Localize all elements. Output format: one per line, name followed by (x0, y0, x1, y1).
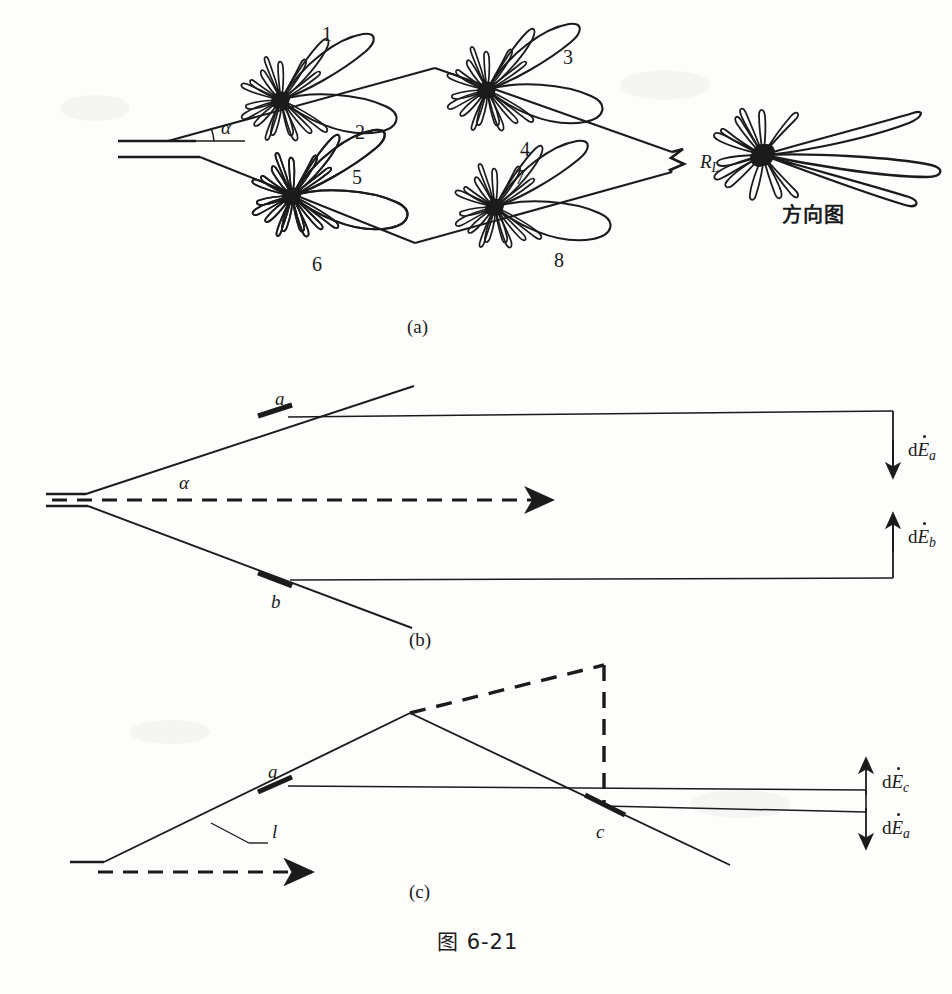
lobe-label-6: 6 (312, 254, 322, 274)
ray-a (288, 411, 893, 417)
termination-label-L: L (712, 160, 720, 175)
field-label-dEc-c: dEc (882, 772, 909, 795)
field-symbol-E-c-c: E (892, 772, 904, 791)
lobe-label-3: 3 (563, 47, 573, 67)
differential-d-b-a: d (908, 439, 918, 460)
l-leader-line (211, 823, 249, 843)
field-label-dEa-c: dEa (882, 818, 910, 841)
field-label-dEb-b: dEb (908, 527, 936, 550)
c-wire-rising (104, 713, 410, 862)
termination-label-R: R (700, 151, 712, 172)
lobe-label-8: 8 (554, 250, 564, 270)
termination-label-RL: RL (700, 152, 719, 175)
figure-caption: 图 6-21 (437, 932, 518, 953)
lobe-pattern-3-4 (447, 24, 602, 131)
alpha-label-b: α (179, 473, 189, 492)
lobe-label-4: 4 (520, 139, 530, 159)
field-symbol-E-b-a: E (918, 440, 930, 459)
ray-b (290, 578, 893, 580)
lobe-pattern-7-8 (455, 141, 610, 248)
lobe-label-5: 5 (352, 167, 362, 187)
panel-a-label: (a) (407, 317, 428, 336)
lobe-label-2: 2 (355, 122, 365, 142)
figure-drawing (0, 0, 952, 994)
panel-b-label: (b) (409, 630, 431, 649)
point-label-c-c: c (596, 822, 604, 841)
wire-b (88, 506, 412, 628)
point-label-a-c: a (268, 762, 278, 781)
alpha-label-a: α (221, 118, 231, 137)
length-label-l: l (272, 822, 277, 841)
differential-d-c-c: d (882, 771, 892, 792)
alpha-angle-arc (211, 128, 214, 141)
figure-root: α 1 2 3 4 5 6 7 8 RL 方向图 (a) a b α dEa d… (0, 0, 952, 994)
lobe-label-7: 7 (515, 167, 525, 187)
element-b-segment (258, 573, 292, 586)
lobe-pattern-1-2 (241, 34, 396, 141)
c-dashed-hypotenuse (410, 665, 604, 713)
field-symbol-E-c-a: E (892, 818, 904, 837)
termination-resistor-zigzag (670, 149, 684, 172)
point-label-b-b: b (271, 592, 281, 611)
ray-c-upper (288, 786, 866, 790)
field-sub-c-c: c (903, 780, 909, 795)
pattern-caption-fangxiangtu: 方向图 (782, 205, 845, 225)
resultant-radiation-pattern (714, 109, 940, 206)
wire-a (86, 386, 414, 494)
ray-c-lower (604, 806, 866, 812)
point-label-a-b: a (275, 389, 285, 408)
rhombus-side-upper-left (168, 68, 435, 141)
field-symbol-E-b-b: E (918, 527, 930, 546)
lobe-pattern-5-6-b (252, 130, 407, 237)
field-sub-a-b: a (929, 448, 936, 463)
panel-c-drawing (70, 665, 866, 872)
panel-c-label: (c) (409, 882, 430, 901)
differential-d-c-a: d (882, 817, 892, 838)
differential-d-b-b: d (908, 526, 918, 547)
field-sub-a-c: a (903, 826, 910, 841)
panel-b-drawing (46, 386, 893, 628)
lobe-label-1: 1 (322, 24, 332, 44)
field-label-dEa-b: dEa (908, 440, 936, 463)
field-sub-b-b: b (929, 535, 936, 550)
lobe-pattern-5-6 (252, 130, 407, 237)
